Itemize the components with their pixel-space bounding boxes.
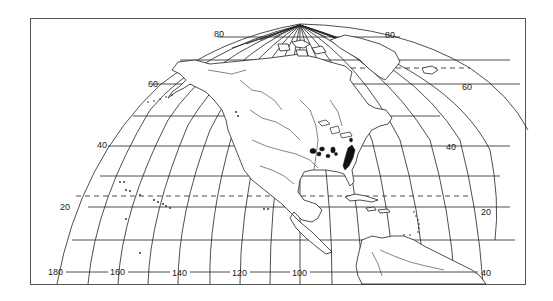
lon-label-180: 180	[48, 267, 63, 277]
lon-label-160: 160	[110, 267, 125, 277]
lat-label-40-left: 40	[97, 140, 107, 150]
lat-label-80-left: 80	[214, 29, 224, 39]
map-canvas: 80 60 40 20 80 60 40 20 180 160 140 120 …	[0, 0, 553, 301]
lat-label-60-left: 60	[148, 79, 158, 89]
lat-label-40-right: 40	[446, 142, 456, 152]
lat-label-80-right: 80	[385, 30, 395, 40]
north-america-outline	[168, 35, 486, 284]
lon-label-140: 140	[172, 268, 187, 278]
lat-label-20-left: 20	[60, 202, 70, 212]
lon-label-40: 40	[481, 268, 491, 278]
lat-label-20-right: 20	[481, 207, 491, 217]
lat-label-60-right: 60	[462, 82, 472, 92]
lon-label-100: 100	[292, 268, 307, 278]
lon-label-120: 120	[232, 268, 247, 278]
